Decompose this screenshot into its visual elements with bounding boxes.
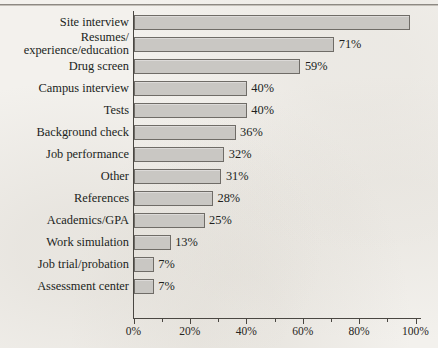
bar-chart: 0%20%40%60%80%100% Site interviewResumes…	[0, 0, 438, 348]
bar	[134, 235, 171, 250]
bar-category-label-line1: Background check	[36, 126, 129, 139]
bar-row: Resumes/experience/education71%	[0, 33, 438, 55]
x-tick-label-0: 0%	[126, 325, 141, 337]
x-tick-minor-50	[275, 319, 276, 322]
x-tick-minor-70	[331, 319, 332, 322]
bar-category-label: Background check	[36, 121, 129, 143]
bar-value-label: 7%	[158, 276, 175, 298]
bar-value-label: 40%	[251, 99, 274, 121]
x-tick-label-80: 80%	[349, 325, 370, 337]
bar-row: Site interview	[0, 11, 438, 33]
bar-category-label: Work simulation	[46, 232, 129, 254]
bar	[134, 213, 205, 228]
bar-value-label: 31%	[226, 165, 249, 187]
bar-row: Other31%	[0, 165, 438, 187]
x-tick-major-40	[246, 319, 247, 324]
bar-category-label: Campus interview	[38, 77, 129, 99]
bar	[134, 279, 154, 294]
bar-value-label: 36%	[240, 121, 263, 143]
bar	[134, 125, 236, 140]
bar-value-label: 40%	[251, 77, 274, 99]
x-tick-label-60: 60%	[292, 325, 313, 337]
x-tick-label-40: 40%	[236, 325, 257, 337]
bar	[134, 191, 213, 206]
bar	[134, 37, 334, 52]
bar-row: References28%	[0, 187, 438, 209]
bar	[134, 103, 247, 118]
bar-row: Assessment center7%	[0, 276, 438, 298]
bar-value-label: 7%	[158, 254, 175, 276]
bar-category-label: Drug screen	[69, 55, 129, 77]
bar-category-label-line1: Job performance	[46, 148, 129, 161]
bar	[134, 15, 410, 30]
bar-category-label-line1: Other	[101, 170, 129, 183]
bar-category-label: Other	[101, 165, 129, 187]
x-tick-minor-30	[218, 319, 219, 322]
bar-category-label: References	[74, 187, 129, 209]
x-tick-label-20: 20%	[179, 325, 200, 337]
bar-category-label: Assessment center	[37, 276, 129, 298]
bar-category-label-line1: Campus interview	[38, 82, 129, 95]
x-tick-major-20	[190, 319, 191, 324]
bar-row: Job trial/probation7%	[0, 254, 438, 276]
x-tick-major-0	[134, 319, 135, 324]
bar-value-label: 28%	[217, 187, 240, 209]
bar-category-label-line1: Site interview	[60, 16, 129, 29]
bar-value-label: 71%	[339, 33, 362, 55]
bar	[134, 169, 221, 184]
bar-row: Background check36%	[0, 121, 438, 143]
bar-row: Drug screen59%	[0, 55, 438, 77]
bar-category-label: Academics/GPA	[47, 209, 129, 231]
bar-category-label: Resumes/experience/education	[24, 33, 129, 55]
bar-row: Campus interview40%	[0, 77, 438, 99]
bar-value-label: 59%	[305, 55, 328, 77]
bar-category-label-line1: Tests	[104, 104, 129, 117]
bar-category-label-line1: Drug screen	[69, 60, 129, 73]
bar-row: Academics/GPA25%	[0, 209, 438, 231]
bar-category-label-line1: Job trial/probation	[38, 258, 129, 271]
bar-category-label: Job performance	[46, 143, 129, 165]
x-tick-major-100	[416, 319, 417, 324]
bar	[134, 81, 247, 96]
x-axis-line	[133, 318, 421, 319]
bar	[134, 147, 224, 162]
bar-row: Tests40%	[0, 99, 438, 121]
bar-category-label-line1: References	[74, 192, 129, 205]
bar-row: Work simulation13%	[0, 232, 438, 254]
bar-category-label: Job trial/probation	[38, 254, 129, 276]
x-tick-label-100: 100%	[402, 325, 429, 337]
bar-value-label: 32%	[229, 143, 252, 165]
x-tick-minor-90	[387, 319, 388, 322]
bar-row: Job performance32%	[0, 143, 438, 165]
bar	[134, 59, 300, 74]
x-tick-minor-10	[162, 319, 163, 322]
bar-category-label-line1: Academics/GPA	[47, 214, 129, 227]
x-tick-major-80	[359, 319, 360, 324]
bar-value-label: 25%	[209, 209, 232, 231]
x-tick-major-60	[303, 319, 304, 324]
bar-category-label-line1: Assessment center	[37, 280, 129, 293]
bar-category-label: Tests	[104, 99, 129, 121]
bar-value-label: 13%	[175, 232, 198, 254]
bar	[134, 257, 154, 272]
bar-category-label-line1: Work simulation	[46, 236, 129, 249]
